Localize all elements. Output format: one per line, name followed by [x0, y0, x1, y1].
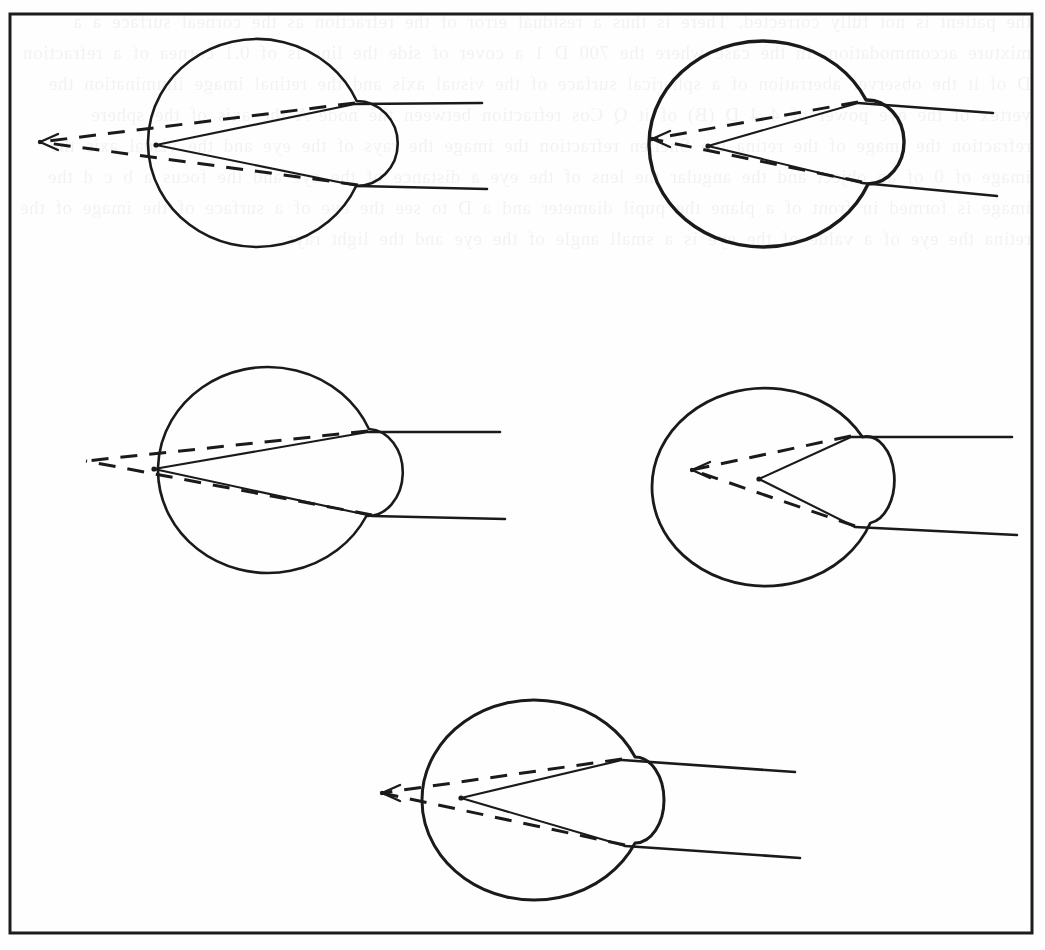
- solid-ray-upper-internal: [759, 437, 851, 479]
- incident-ray-upper: [858, 103, 993, 113]
- focus-point-marker: [650, 137, 654, 141]
- eye-refraction-figure: [0, 0, 1045, 950]
- incident-ray-lower: [862, 183, 997, 196]
- solid-ray-lower-internal: [461, 798, 625, 846]
- eye-diagrams-group: [38, 39, 1017, 900]
- focus-point-marker: [380, 791, 384, 795]
- incident-ray-lower: [625, 846, 800, 858]
- ray-convergence-point: [151, 466, 156, 471]
- focus-point-marker: [38, 140, 42, 144]
- incident-ray-lower: [358, 186, 487, 189]
- eye-diagram-middle-right: [652, 388, 1017, 586]
- solid-ray-upper-internal: [461, 760, 622, 798]
- dashed-ray-lower: [382, 793, 625, 845]
- dashed-ray-upper: [692, 436, 851, 470]
- eyeball-outline: [148, 39, 398, 247]
- eyeball-outline: [649, 41, 904, 247]
- ray-convergence-point: [756, 476, 761, 481]
- dashed-ray-lower: [692, 470, 855, 526]
- eye-diagram-top-left: [38, 39, 487, 247]
- figure-frame: [10, 14, 1032, 933]
- dashed-ray-lower: [652, 139, 862, 182]
- eye-diagram-top-right: [649, 41, 997, 247]
- eye-diagram-bottom-center: [380, 700, 800, 900]
- ray-convergence-point: [458, 795, 463, 800]
- dashed-ray-lower: [40, 142, 358, 185]
- figure-page: the patient is not fully corrected. Ther…: [0, 0, 1045, 950]
- eyeball-outline: [158, 367, 403, 573]
- incident-ray-upper: [355, 103, 482, 104]
- ray-convergence-point: [153, 142, 158, 147]
- solid-ray-upper-internal: [156, 104, 355, 145]
- ray-convergence-point: [705, 143, 710, 148]
- focus-point-marker: [690, 468, 694, 472]
- incident-ray-lower: [855, 527, 1017, 535]
- incident-ray-upper: [622, 760, 795, 772]
- incident-ray-lower: [372, 516, 505, 519]
- eye-diagram-middle-left: [86, 367, 505, 573]
- focus-arrowhead: [40, 134, 58, 150]
- figure-frame-group: [10, 14, 1032, 933]
- focus-arrowhead: [652, 131, 670, 147]
- eyeball-outline: [422, 700, 664, 900]
- dashed-ray-lower: [86, 461, 372, 515]
- focus-arrowhead: [692, 462, 710, 478]
- solid-ray-lower-internal: [708, 146, 862, 183]
